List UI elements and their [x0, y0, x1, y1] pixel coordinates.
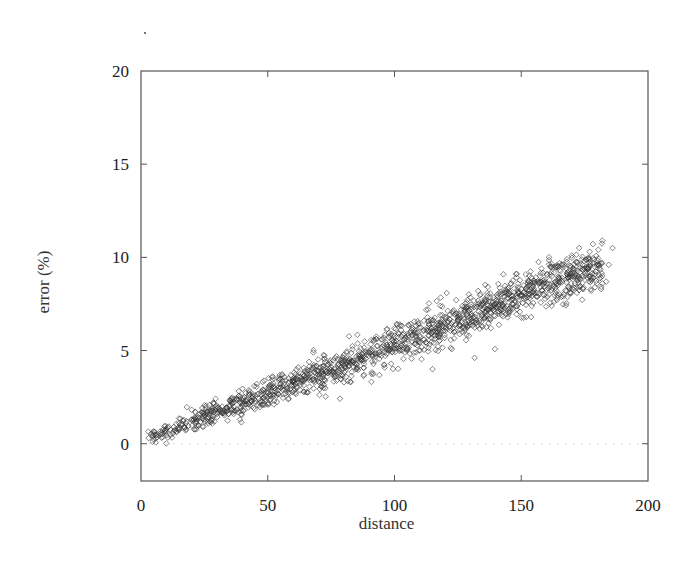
y-tick-label: 15	[112, 155, 129, 174]
y-tick-label: 10	[112, 248, 129, 267]
y-axis-ticks: 05101520	[112, 62, 648, 454]
x-axis-label: distance	[359, 514, 415, 533]
y-tick-label: 0	[121, 435, 130, 454]
y-axis-label: error (%)	[34, 251, 53, 314]
y-tick-label: 20	[112, 62, 129, 81]
y-tick-label: 5	[121, 342, 130, 361]
x-tick-label: 0	[137, 496, 146, 515]
x-tick-label: 100	[382, 496, 408, 515]
x-tick-label: 50	[259, 496, 276, 515]
scatter-chart: 050100150200 05101520 distance error (%)	[0, 0, 693, 561]
x-axis-ticks: 050100150200	[137, 71, 661, 515]
x-tick-label: 150	[509, 496, 535, 515]
x-tick-label: 200	[635, 496, 661, 515]
data-points	[145, 238, 615, 446]
